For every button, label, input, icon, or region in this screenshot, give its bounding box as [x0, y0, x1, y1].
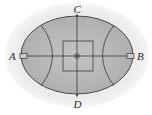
- rect-at-b: [127, 54, 134, 59]
- label-d: D: [73, 98, 82, 110]
- point-d-dot: [76, 94, 78, 96]
- rect-at-a: [20, 54, 27, 59]
- label-a: A: [8, 50, 16, 62]
- point-c-dot: [76, 15, 78, 17]
- label-c: C: [74, 3, 82, 15]
- label-b: B: [137, 50, 144, 62]
- ellipse-diagram: C D A B: [0, 0, 152, 115]
- center-point-dot: [76, 55, 78, 57]
